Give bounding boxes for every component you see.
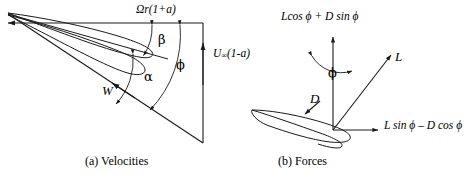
drag-label: D bbox=[310, 92, 319, 105]
force-diagram-group bbox=[252, 37, 391, 148]
lift-vector bbox=[333, 55, 391, 130]
tangential-force-label: L sin ϕ – D cos ϕ bbox=[384, 120, 462, 132]
tangential-velocity-label: Ωr(1+a) bbox=[136, 4, 176, 16]
chord-line bbox=[8, 14, 168, 59]
airfoil-outline-lower bbox=[8, 15, 145, 75]
axial-force-label: Lcos ϕ + D sin ϕ bbox=[281, 11, 359, 23]
caption-velocities: (a) Velocities bbox=[85, 155, 148, 167]
airfoil-velocity-force-figure: Ωr(1+a) U∞(1-a) W β α ϕ (a) Velocities L… bbox=[0, 0, 476, 180]
figure-vector-graphics bbox=[0, 0, 476, 180]
relative-velocity-arrow bbox=[112, 83, 135, 98]
caption-forces: (b) Forces bbox=[278, 155, 327, 167]
relative-velocity-line bbox=[8, 14, 203, 143]
relative-velocity-label: W bbox=[102, 84, 113, 97]
velocity-triangle-group bbox=[8, 13, 203, 143]
phi-angle-label-forces: ϕ bbox=[328, 66, 337, 79]
axial-velocity-rest: (1-a) bbox=[227, 47, 250, 59]
alpha-angle-label: α bbox=[144, 70, 153, 83]
beta-angle-label: β bbox=[158, 33, 166, 46]
phi-angle-label-velocities: ϕ bbox=[176, 58, 185, 71]
lift-label: L bbox=[395, 50, 402, 63]
alpha-angle-arc bbox=[116, 54, 133, 104]
axial-velocity-label: U∞(1-a) bbox=[213, 48, 250, 60]
